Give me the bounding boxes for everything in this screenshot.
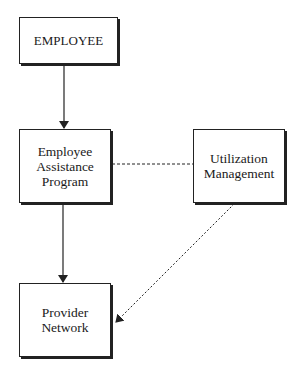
node-employee-assistance-program: Employee Assistance Program xyxy=(19,129,111,203)
node-employee-label: EMPLOYEE xyxy=(34,33,103,48)
node-employee: EMPLOYEE xyxy=(19,17,118,64)
node-utilization-label: Utilization Management xyxy=(204,151,274,181)
node-eap-label: Employee Assistance Program xyxy=(36,144,94,189)
node-utilization-management: Utilization Management xyxy=(193,129,285,203)
node-provider-network: Provider Network xyxy=(19,283,111,357)
dotted-arrow-utilization-to-provider xyxy=(116,204,234,322)
node-provider-label: Provider Network xyxy=(41,305,88,335)
